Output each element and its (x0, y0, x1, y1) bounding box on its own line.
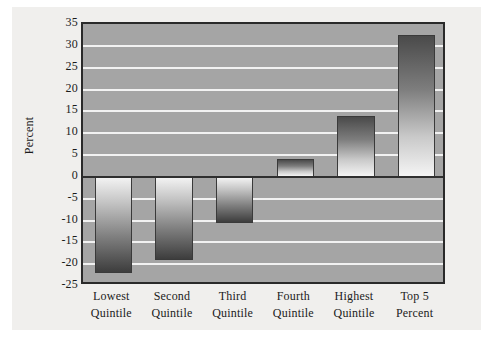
x-tick-label-line: Quintile (202, 305, 263, 322)
gridline (83, 241, 443, 243)
bar-top-5-percent (398, 35, 436, 177)
x-tick-label-line: Quintile (324, 305, 385, 322)
y-tick-label: -25 (40, 277, 78, 292)
x-axis-category-labels: LowestQuintileSecondQuintileThirdQuintil… (81, 288, 445, 330)
x-tick-label: ThirdQuintile (202, 288, 263, 322)
bar-lowest-quintile (95, 177, 133, 273)
x-tick-label-line: Highest (324, 288, 385, 305)
x-tick-label-line: Quintile (81, 305, 142, 322)
plot-area (81, 22, 445, 284)
y-tick-label: 25 (40, 58, 78, 73)
bar-third-quintile (216, 177, 254, 223)
y-tick-label: -5 (40, 189, 78, 204)
x-tick-label-line: Fourth (263, 288, 324, 305)
gridline (83, 89, 443, 91)
x-tick-label: HighestQuintile (324, 288, 385, 322)
x-tick-label-line: Quintile (142, 305, 203, 322)
y-tick-label: 15 (40, 102, 78, 117)
x-tick-label-line: Lowest (81, 288, 142, 305)
bar-highest-quintile (337, 116, 375, 177)
gridline (83, 263, 443, 265)
y-axis-tick-labels: 35302520151050-5-10-15-20-25 (40, 15, 78, 277)
y-tick-label: 30 (40, 36, 78, 51)
gridline (83, 45, 443, 47)
y-tick-label: 20 (40, 80, 78, 95)
x-tick-label: Top 5Percent (384, 288, 445, 322)
y-tick-label: 5 (40, 146, 78, 161)
y-tick-label: -10 (40, 211, 78, 226)
y-tick-label: 10 (40, 124, 78, 139)
x-tick-label-line: Top 5 (384, 288, 445, 305)
y-tick-label: -20 (40, 255, 78, 270)
gridline (83, 220, 443, 222)
x-tick-label: FourthQuintile (263, 288, 324, 322)
x-tick-label-line: Second (142, 288, 203, 305)
x-tick-label-line: Percent (384, 305, 445, 322)
y-tick-label: 35 (40, 15, 78, 30)
x-tick-label: LowestQuintile (81, 288, 142, 322)
gridline (83, 110, 443, 112)
gridline (83, 67, 443, 69)
plot-inner (83, 24, 443, 282)
chart-figure: Percent 35302520151050-5-10-15-20-25 Low… (12, 7, 481, 330)
bar-fourth-quintile (277, 159, 315, 176)
zero-axis-line (83, 176, 443, 178)
x-tick-label-line: Third (202, 288, 263, 305)
bar-second-quintile (155, 177, 193, 260)
y-axis-title: Percent (22, 91, 37, 181)
gridline (83, 154, 443, 156)
x-tick-label: SecondQuintile (142, 288, 203, 322)
y-tick-label: 0 (40, 167, 78, 182)
gridline (83, 198, 443, 200)
y-tick-label: -15 (40, 233, 78, 248)
x-tick-label-line: Quintile (263, 305, 324, 322)
gridline (83, 132, 443, 134)
